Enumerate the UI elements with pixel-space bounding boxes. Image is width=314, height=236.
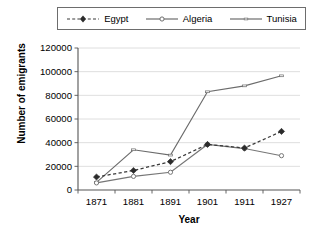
data-point-algeria-1871 [94, 181, 98, 185]
y-tick-label: 100000 [40, 66, 72, 77]
y-axis-tick-labels: 020000400006000080000100000120000 [40, 42, 72, 195]
data-point-egypt-1927 [278, 128, 284, 134]
emigrants-line-chart: Egypt Algeria Tunisia Number of emigrant… [0, 0, 314, 236]
data-point-egypt-1871 [93, 174, 99, 180]
data-point-algeria-1927 [279, 154, 283, 158]
plot-area: 020000400006000080000100000120000 187118… [0, 0, 314, 236]
y-tick-label: 0 [67, 184, 72, 195]
y-tick-label: 120000 [40, 42, 72, 53]
data-point-tunisia-1911 [243, 85, 247, 87]
data-point-egypt-1881 [130, 167, 136, 173]
data-point-egypt-1891 [167, 159, 173, 165]
data-point-tunisia-1901 [206, 91, 210, 93]
data-point-algeria-1881 [131, 174, 135, 178]
series-line-algeria [97, 144, 282, 182]
x-tick-label: 1927 [271, 196, 292, 207]
y-tick-label: 80000 [45, 90, 72, 101]
data-point-tunisia-1881 [132, 149, 136, 151]
gridlines [78, 48, 300, 166]
data-point-algeria-1891 [168, 170, 172, 174]
x-tick-label: 1901 [197, 196, 218, 207]
x-axis-tick-labels: 187118811891190119111927 [86, 196, 292, 207]
x-tick-label: 1911 [234, 196, 255, 207]
y-tick-label: 20000 [45, 161, 72, 172]
x-tick-label: 1891 [160, 196, 181, 207]
data-point-tunisia-1927 [280, 75, 284, 77]
x-tick-label: 1881 [123, 196, 144, 207]
x-tick-label: 1871 [86, 196, 107, 207]
data-point-tunisia-1891 [169, 154, 173, 156]
series-line-egypt [97, 131, 282, 177]
y-tick-label: 40000 [45, 137, 72, 148]
y-tick-label: 60000 [45, 113, 72, 124]
data-point-egypt-1911 [241, 145, 247, 151]
data-series-layer [93, 75, 284, 185]
